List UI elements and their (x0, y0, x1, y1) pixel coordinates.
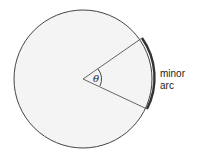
arc-label-arc: arc (160, 80, 174, 91)
angle-theta-label: θ (93, 73, 99, 84)
arc-label-minor: minor (160, 68, 185, 79)
